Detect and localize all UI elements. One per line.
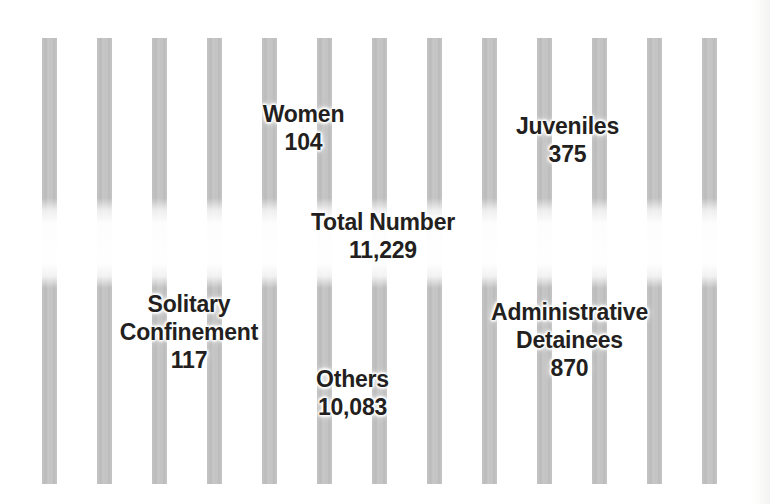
stat-women-title: Women: [206, 100, 401, 128]
stat-total-value: 11,229: [258, 236, 508, 264]
prison-bar: [702, 38, 717, 484]
stat-women-value: 104: [206, 128, 401, 156]
stat-solitary-confinement: Solitary Confinement 117: [64, 290, 314, 374]
stat-total-title: Total Number: [258, 208, 508, 236]
stat-solitary-confinement-title-line1: Solitary: [64, 290, 314, 318]
prison-bar: [152, 38, 167, 484]
stat-total: Total Number 11,229: [258, 208, 508, 264]
stat-administrative-detainees-title-line1: Administrative: [432, 298, 707, 326]
infographic-canvas: Women 104 Juveniles 375 Total Number 11,…: [0, 0, 770, 504]
stat-administrative-detainees-title-line2: Detainees: [432, 326, 707, 354]
stat-administrative-detainees-value: 870: [432, 354, 707, 382]
stat-others: Others 10,083: [255, 365, 450, 421]
stat-juveniles-value: 375: [470, 140, 665, 168]
stat-others-value: 10,083: [255, 393, 450, 421]
stat-juveniles: Juveniles 375: [470, 112, 665, 168]
prison-bar: [647, 38, 662, 484]
prison-bar: [42, 38, 57, 484]
prison-bar: [537, 38, 552, 484]
prison-bar: [592, 38, 607, 484]
stat-solitary-confinement-title-line2: Confinement: [64, 318, 314, 346]
stat-others-title: Others: [255, 365, 450, 393]
stat-juveniles-title: Juveniles: [470, 112, 665, 140]
page-edge: [752, 0, 770, 504]
stat-women: Women 104: [206, 100, 401, 156]
stat-administrative-detainees: Administrative Detainees 870: [432, 298, 707, 382]
prison-bar: [97, 38, 112, 484]
